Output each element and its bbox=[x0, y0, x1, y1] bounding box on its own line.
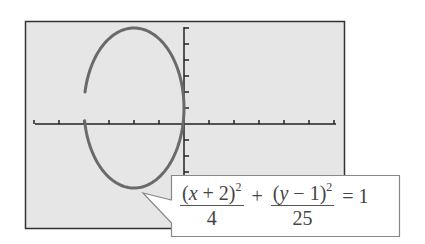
fraction-x-term: (x + 2)2 4 bbox=[180, 182, 244, 230]
plus-sign: + bbox=[252, 185, 263, 208]
equals-one: = 1 bbox=[342, 185, 368, 208]
fraction-y-numerator: (y − 1)2 bbox=[271, 182, 335, 206]
fraction-y-term: (y − 1)2 25 bbox=[271, 182, 335, 230]
paren: ( bbox=[182, 182, 189, 204]
num-rest: − 1) bbox=[288, 182, 326, 204]
var-x: x bbox=[189, 182, 198, 204]
fraction-x-denominator: 4 bbox=[207, 206, 217, 230]
fraction-y-denominator: 25 bbox=[293, 206, 313, 230]
equation-callout: (x + 2)2 4 + (y − 1)2 25 = 1 bbox=[176, 178, 398, 234]
num-rest: + 2) bbox=[198, 182, 236, 204]
exponent: 2 bbox=[326, 180, 332, 194]
exponent: 2 bbox=[236, 180, 242, 194]
fraction-x-numerator: (x + 2)2 bbox=[180, 182, 244, 206]
